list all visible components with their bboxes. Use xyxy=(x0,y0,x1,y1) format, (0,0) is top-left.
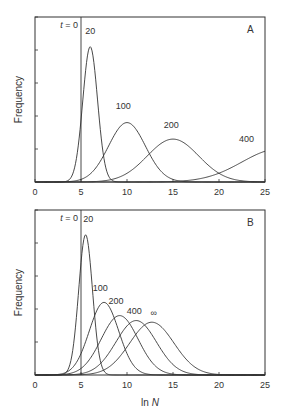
curve-label: 200 xyxy=(164,120,179,130)
curve-100 xyxy=(35,123,265,182)
y-axis-label: Frequency xyxy=(13,269,24,316)
y-axis-label: Frequency xyxy=(13,76,24,123)
x-tick-label: 20 xyxy=(214,187,224,197)
x-tick-label: 10 xyxy=(122,187,132,197)
curve-20 xyxy=(35,235,265,375)
x-tick-label: 5 xyxy=(78,380,83,390)
x-tick-label: 25 xyxy=(260,380,270,390)
x-tick-label: 0 xyxy=(32,187,37,197)
curve-label: 20 xyxy=(85,26,95,36)
curve-20 xyxy=(35,47,265,182)
plot-frame xyxy=(35,210,265,375)
curve-label: 400 xyxy=(127,306,142,316)
chart-canvas: 0510152025t = 0AFrequency201002004000510… xyxy=(0,0,284,414)
curve-label: 200 xyxy=(108,296,123,306)
panel-b: 0510152025t = 0BFrequency20100200400∞ xyxy=(13,210,270,390)
curve-label: 400 xyxy=(239,134,254,144)
x-tick-label: 20 xyxy=(214,380,224,390)
x-tick-label: 15 xyxy=(168,187,178,197)
curve-400 xyxy=(35,151,265,182)
x-tick-label: 5 xyxy=(78,187,83,197)
x-tick-label: 0 xyxy=(32,380,37,390)
curve-label: 100 xyxy=(93,283,108,293)
plot-frame xyxy=(35,17,265,182)
curve-label: 100 xyxy=(116,101,131,111)
panel-label: B xyxy=(247,217,254,228)
x-axis-label: ln N xyxy=(141,397,160,408)
t0-label: t = 0 xyxy=(60,20,78,30)
panel-label: A xyxy=(247,24,254,35)
x-tick-label: 10 xyxy=(122,380,132,390)
t0-label: t = 0 xyxy=(60,213,78,223)
curve-label: 20 xyxy=(83,214,93,224)
curve-200 xyxy=(35,139,265,182)
x-tick-label: 15 xyxy=(168,380,178,390)
curve-label: ∞ xyxy=(150,308,156,318)
panel-a: 0510152025t = 0AFrequency20100200400 xyxy=(13,17,270,197)
x-tick-label: 25 xyxy=(260,187,270,197)
